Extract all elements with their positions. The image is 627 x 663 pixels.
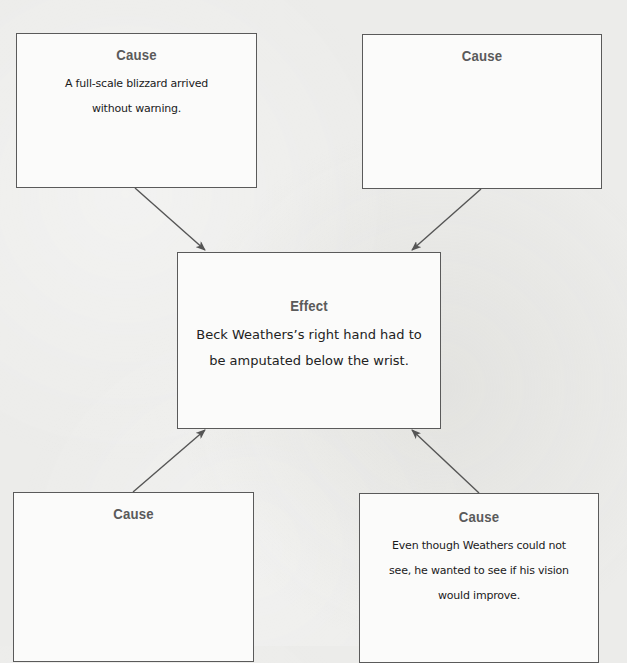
effect-title: Effect bbox=[194, 297, 425, 314]
arrow-bottom-left-to-effect bbox=[133, 430, 205, 492]
effect-text-line: be amputated below the wrist. bbox=[190, 348, 428, 374]
cause-text-line: see, he wanted to see if his vision bbox=[374, 558, 584, 583]
cause-text-line: A full-scale blizzard arrived bbox=[31, 71, 242, 96]
cause-box-top-right[interactable]: Cause bbox=[362, 34, 602, 189]
cause-title: Cause bbox=[374, 508, 583, 525]
cause-text: A full-scale blizzard arrived without wa… bbox=[31, 71, 242, 121]
cause-box-bottom-left[interactable]: Cause bbox=[13, 492, 254, 662]
arrow-top-right-to-effect bbox=[412, 189, 481, 250]
cause-box-bottom-right: Cause Even though Weathers could not see… bbox=[359, 493, 599, 663]
cause-text: Even though Weathers could not see, he w… bbox=[374, 533, 584, 608]
cause-text-line: without warning. bbox=[31, 96, 242, 121]
cause-text-line: would improve. bbox=[374, 583, 584, 608]
effect-text-line: Beck Weathers’s right hand had to bbox=[190, 322, 428, 348]
cause-text-line: Even though Weathers could not bbox=[374, 533, 584, 558]
cause-box-top-left: Cause A full-scale blizzard arrived with… bbox=[16, 33, 257, 188]
effect-text: Beck Weathers’s right hand had to be amp… bbox=[190, 322, 428, 374]
cause-title: Cause bbox=[28, 505, 238, 522]
effect-box: Effect Beck Weathers’s right hand had to… bbox=[177, 252, 441, 429]
arrow-top-left-to-effect bbox=[135, 188, 205, 250]
arrow-bottom-right-to-effect bbox=[412, 430, 479, 493]
cause-title: Cause bbox=[31, 46, 241, 63]
cause-title: Cause bbox=[377, 47, 586, 64]
